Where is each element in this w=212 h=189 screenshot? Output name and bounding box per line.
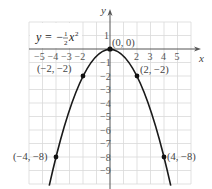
svg-text:−5: −5 [34, 51, 45, 62]
svg-text:−4: −4 [100, 98, 111, 109]
label-m2-m2: (−2, −2) [37, 63, 72, 75]
point-m2-m2 [81, 74, 86, 79]
svg-text:4: 4 [161, 51, 166, 62]
svg-text:−3: −3 [100, 84, 111, 95]
point-2-m2 [135, 74, 140, 79]
svg-text:−9: −9 [100, 165, 111, 176]
y-axis-label: y [100, 4, 106, 16]
svg-text:1: 1 [64, 30, 68, 38]
svg-text:−6: −6 [100, 125, 111, 136]
svg-text:2: 2 [64, 39, 68, 47]
point-m4-m8 [54, 155, 59, 160]
label-m4-m8: (−4, −8) [13, 151, 48, 163]
parabola-chart: x y −5 −4 −3 −2 2 3 4 5 1 −1 −2 −3 −4 −5… [0, 0, 212, 189]
label-2-m2: (2, −2) [140, 64, 169, 76]
svg-text:−1: −1 [100, 57, 111, 68]
svg-text:−5: −5 [100, 111, 111, 122]
svg-text:−2: −2 [75, 51, 86, 62]
svg-text:5: 5 [175, 51, 180, 62]
svg-text:−3: −3 [61, 51, 72, 62]
svg-text:−4: −4 [48, 51, 59, 62]
label-origin: (0, 0) [112, 37, 135, 49]
svg-text:x: x [68, 30, 75, 44]
svg-text:y = −: y = − [35, 30, 64, 44]
label-4-m8: (4, −8) [167, 151, 196, 163]
svg-text:2: 2 [134, 51, 139, 62]
svg-text:3: 3 [148, 51, 153, 62]
svg-text:−2: −2 [100, 71, 111, 82]
point-4-m8 [162, 155, 167, 160]
svg-text:1: 1 [104, 30, 109, 41]
svg-text:−7: −7 [100, 138, 111, 149]
svg-text:−8: −8 [100, 152, 111, 163]
x-axis-label: x [198, 52, 204, 64]
svg-text:2: 2 [75, 30, 79, 38]
